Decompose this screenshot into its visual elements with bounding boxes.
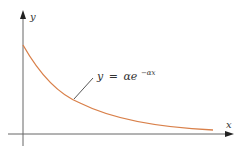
equation-eq: = <box>109 70 118 83</box>
y-axis-arrow-icon <box>20 10 26 19</box>
equation-lhs: y <box>96 70 104 83</box>
equation-coef: αe <box>123 70 137 83</box>
equation-exponent: −αx <box>141 69 156 77</box>
equation-label: y = αe −αx <box>96 69 155 83</box>
x-axis-label: x <box>226 119 232 130</box>
exponential-decay-chart: y x y = αe −αx <box>0 0 245 150</box>
annotation-leader <box>74 78 93 99</box>
decay-curve <box>23 45 213 130</box>
x-axis-arrow-icon <box>225 131 234 137</box>
y-axis-label: y <box>29 11 36 22</box>
